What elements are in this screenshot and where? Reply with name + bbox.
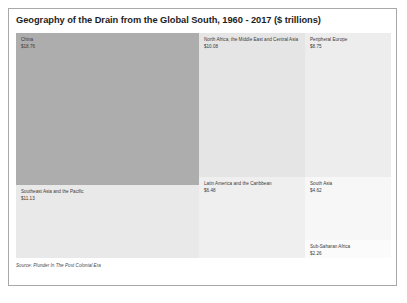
- treemap-tile-north-africa-middle-east-central-asia[interactable]: North Africa, the Middle East and Centra…: [199, 33, 305, 177]
- tile-label: South Asia: [310, 181, 386, 187]
- tile-value: $4.62: [310, 188, 386, 194]
- tile-content: Southeast Asia and the Pacific $11.13: [16, 185, 199, 202]
- tile-value: $6.48: [204, 188, 300, 194]
- treemap-tile-peripheral-europe[interactable]: Peripheral Europe $8.75: [305, 33, 391, 177]
- treemap-tile-china[interactable]: China $18.76: [16, 33, 199, 185]
- treemap-tile-south-asia[interactable]: South Asia $4.62: [305, 177, 391, 240]
- chart-source-note: Source: Plunder In The Post Colonial Era: [16, 263, 101, 268]
- tile-label: Latin America and the Caribbean: [204, 181, 300, 187]
- tile-label: North Africa, the Middle East and Centra…: [204, 37, 300, 43]
- tile-value: $11.13: [21, 196, 194, 202]
- treemap-tile-southeast-asia-and-the-pacific[interactable]: Southeast Asia and the Pacific $11.13: [16, 185, 199, 258]
- chart-title: Geography of the Drain from the Global S…: [9, 9, 396, 33]
- tile-content: Latin America and the Caribbean $6.48: [199, 177, 305, 194]
- tile-label: Southeast Asia and the Pacific: [21, 189, 194, 195]
- tile-label: Sub-Saharan Africa: [310, 244, 386, 250]
- treemap-plot-area: China $18.76 Southeast Asia and the Paci…: [16, 33, 391, 258]
- tile-content: China $18.76: [16, 33, 199, 50]
- treemap-tile-sub-saharan-africa[interactable]: Sub-Saharan Africa $2.26: [305, 240, 391, 258]
- tile-value: $18.76: [21, 44, 194, 50]
- tile-value: $8.75: [310, 44, 386, 50]
- tile-content: South Asia $4.62: [305, 177, 391, 194]
- chart-card: Geography of the Drain from the Global S…: [8, 8, 397, 286]
- tile-value: $10.08: [204, 44, 300, 50]
- tile-value: $2.26: [310, 251, 386, 257]
- tile-label: China: [21, 37, 194, 43]
- tile-content: Peripheral Europe $8.75: [305, 33, 391, 50]
- tile-content: Sub-Saharan Africa $2.26: [305, 240, 391, 257]
- tile-content: North Africa, the Middle East and Centra…: [199, 33, 305, 50]
- tile-label: Peripheral Europe: [310, 37, 386, 43]
- treemap-tile-latin-america-and-the-caribbean[interactable]: Latin America and the Caribbean $6.48: [199, 177, 305, 258]
